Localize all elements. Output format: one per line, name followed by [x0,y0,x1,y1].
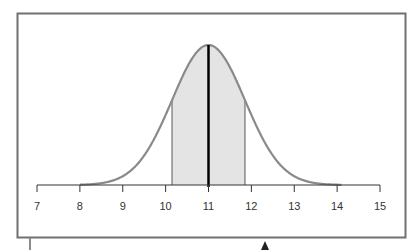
tick-label: 11 [203,200,214,212]
tick-label: 14 [331,200,343,212]
tick-label: 7 [34,200,40,212]
pointer-annotation [30,238,269,250]
tick-label: 8 [77,200,83,212]
tick-label: 13 [288,200,300,212]
tick-label: 9 [120,200,126,212]
tick-label: 12 [245,200,257,212]
up-arrow-icon [261,241,269,250]
tick-label: 15 [374,200,386,212]
normal-distribution-chart: 789101112131415 [0,0,420,250]
tick-label: 10 [160,200,172,212]
